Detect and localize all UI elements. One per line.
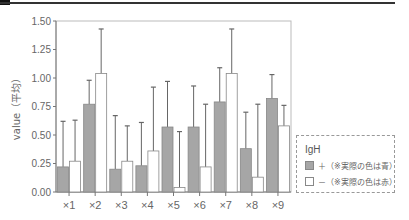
bar [252, 177, 263, 192]
bar [266, 99, 277, 192]
bar [84, 104, 95, 192]
bar [278, 126, 289, 192]
bar [70, 161, 81, 192]
x-tick-label: ×9 [272, 199, 285, 211]
y-tick-label: 1.00 [32, 73, 52, 84]
bar [58, 167, 69, 192]
bar [188, 127, 199, 192]
bar [136, 166, 147, 192]
x-tick-label: ×7 [219, 199, 232, 211]
bar [162, 127, 173, 192]
x-tick-label: ×1 [63, 199, 76, 211]
x-tick-label: ×3 [115, 199, 128, 211]
bar [174, 187, 185, 192]
bar [214, 102, 225, 192]
bar [122, 161, 133, 192]
y-tick-label: 1.50 [32, 16, 52, 27]
y-tick-label: 1.25 [32, 44, 52, 55]
legend-title: IgH [305, 144, 321, 155]
legend-label-minus: －（※実際の色は赤） [318, 176, 397, 187]
x-tick-label: ×2 [89, 199, 102, 211]
y-tick-label: 0.00 [32, 187, 52, 198]
bar [226, 73, 237, 192]
bar [240, 149, 251, 192]
x-tick-label: ×6 [193, 199, 206, 211]
x-tick-label: ×5 [167, 199, 180, 211]
legend-swatch-minus [305, 177, 314, 186]
y-tick-label: 0.25 [32, 158, 52, 169]
x-tick-label: ×8 [246, 199, 259, 211]
legend-item-minus: －（※実際の色は赤） [305, 176, 397, 187]
y-tick-label: 0.75 [32, 101, 52, 112]
bar [110, 169, 121, 192]
legend-item-plus: ＋（※実際の色は青） [305, 160, 397, 171]
bar [148, 151, 159, 192]
legend-swatch-plus [305, 161, 314, 170]
legend-label-plus: ＋（※実際の色は青） [318, 160, 397, 171]
y-axis-label: value（平均） [11, 73, 22, 140]
bar [200, 167, 211, 192]
bar [96, 73, 107, 192]
legend: IgH ＋（※実際の色は青） －（※実際の色は赤） [296, 135, 395, 193]
y-tick-label: 0.50 [32, 130, 52, 141]
x-tick-label: ×4 [141, 199, 154, 211]
